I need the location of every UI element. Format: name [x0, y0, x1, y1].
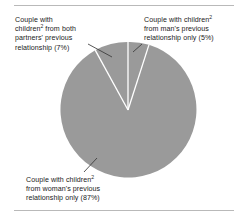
pie-label-man-head: Couple with children [144, 16, 209, 24]
pie-label-both: Couple with children2 from both partners… [15, 16, 93, 53]
footnote-marker: 2 [91, 174, 94, 180]
bottom-divider-rule [14, 210, 234, 211]
pie-label-man: Couple with children2 from man's previou… [144, 16, 244, 44]
footnote-marker: 2 [209, 14, 212, 20]
pie-label-woman-tail: from woman's previous relationship only … [26, 185, 100, 202]
pie-label-man-tail: from man's previous relationship only (5… [144, 25, 214, 42]
pie-label-woman: Couple with children2 from woman's previ… [26, 176, 136, 204]
pie-label-woman-head: Couple with children [26, 176, 91, 184]
pie-chart-figure: Couple with children2 from both partners… [0, 0, 248, 218]
